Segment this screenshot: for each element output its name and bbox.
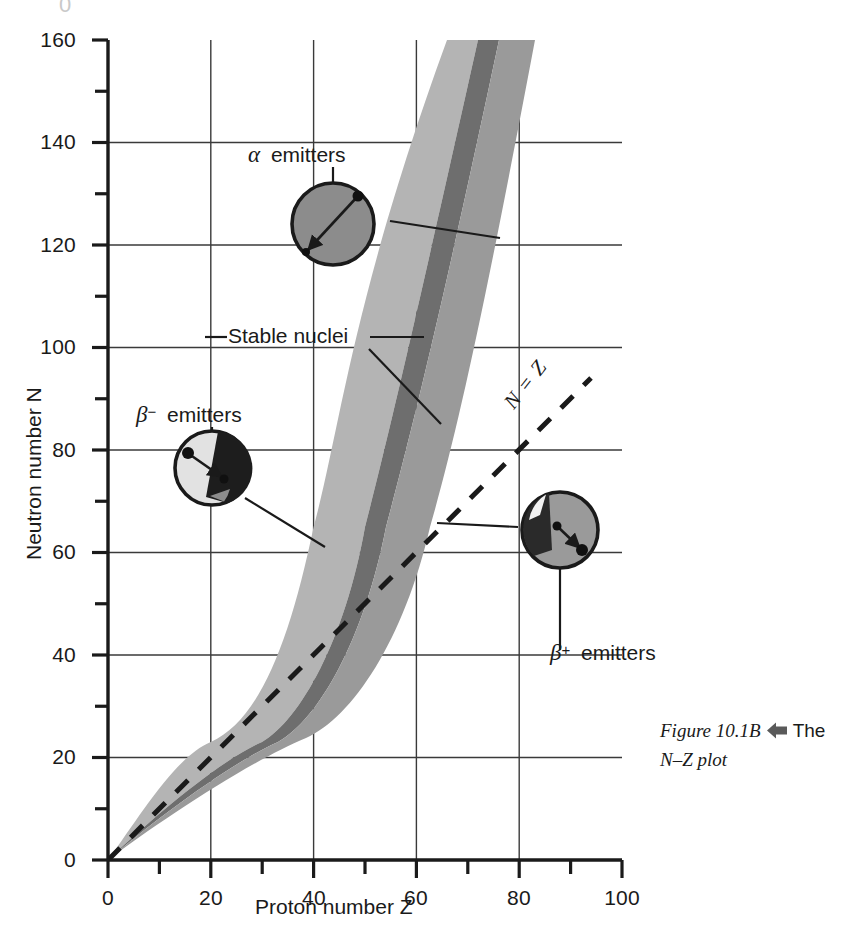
alpha-emitters-text: emitters	[271, 143, 346, 166]
beta-minus-emitters-text: emitters	[167, 403, 242, 426]
beta-minus-emitter-marker	[175, 431, 252, 505]
beta-plus-emitters-text: emitters	[581, 641, 656, 664]
left-triangle-icon	[767, 720, 787, 745]
y-tick-label-0: 0	[14, 848, 76, 872]
x-tick-label-20: 20	[181, 886, 241, 910]
beta-plus-symbol: β	[550, 640, 561, 665]
x-tick-label-100: 100	[592, 886, 652, 910]
annotation-beta-minus-emitters: β− emitters	[136, 402, 242, 428]
y-tick-label-140: 140	[14, 130, 76, 154]
beta-plus-emitter-marker	[522, 492, 598, 568]
figure-root: 0	[0, 0, 868, 930]
y-tick-label-20: 20	[14, 745, 76, 769]
y-axis-title: Neutron number N	[22, 387, 46, 560]
x-tick-label-80: 80	[489, 886, 549, 910]
beta-plus-superscript: +	[561, 641, 570, 658]
beta-minus-superscript: −	[147, 403, 156, 420]
y-tick-label-100: 100	[14, 335, 76, 359]
x-axis-ticks	[108, 860, 622, 878]
y-axis-ticks	[92, 40, 108, 860]
alpha-symbol: α	[248, 142, 260, 167]
annotation-beta-plus-emitters: β+ emitters	[550, 640, 656, 666]
annotation-alpha-emitters: α emitters	[248, 142, 346, 168]
figure-caption-label: Figure 10.1B	[660, 720, 761, 741]
y-tick-label-160: 160	[14, 28, 76, 52]
x-tick-label-0: 0	[78, 886, 138, 910]
y-tick-label-40: 40	[14, 643, 76, 667]
y-tick-label-120: 120	[14, 233, 76, 257]
x-axis-title: Proton number Z	[255, 895, 413, 919]
figure-caption-text-2: N–Z plot	[660, 749, 727, 770]
figure-caption: Figure 10.1B The N–Z plot	[660, 718, 860, 772]
alpha-emitter-marker	[292, 183, 374, 265]
nz-plot-chart	[0, 0, 868, 930]
beta-minus-symbol: β	[136, 402, 147, 427]
figure-caption-text-1: The	[793, 720, 826, 741]
annotation-stable-nuclei: Stable nuclei	[228, 324, 348, 348]
